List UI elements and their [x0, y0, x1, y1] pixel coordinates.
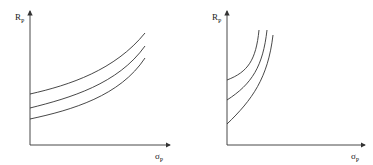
left-x-label: σP [155, 151, 164, 163]
right-curve-2 [227, 30, 267, 100]
left-panel: RP σP [15, 11, 170, 163]
left-curve-2 [30, 46, 145, 108]
left-curve-3 [30, 58, 145, 119]
right-curve-1 [227, 30, 259, 80]
right-x-label: σP [351, 151, 360, 163]
left-y-label: RP [15, 12, 25, 24]
right-panel: RP σP [212, 11, 365, 163]
left-curve-1 [30, 33, 145, 94]
right-y-label: RP [212, 12, 222, 24]
indifference-curves-figure: RP σP RP σP [0, 0, 373, 165]
